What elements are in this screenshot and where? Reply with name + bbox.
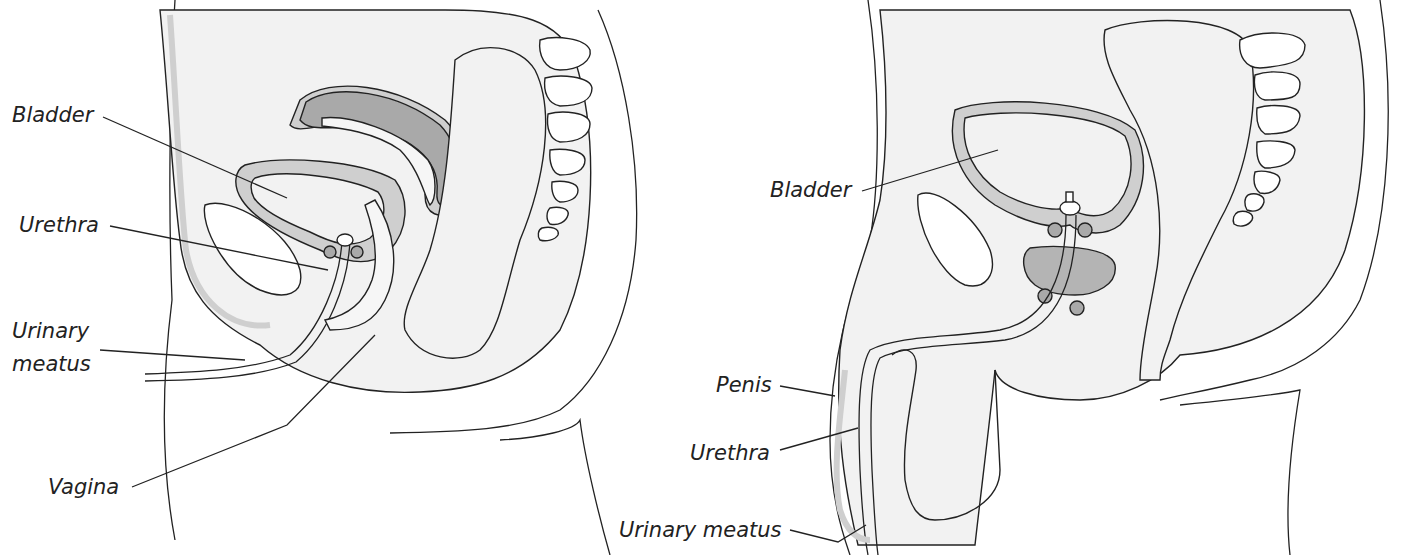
label-male-bladder: Bladder (770, 178, 853, 202)
leader-penis (780, 386, 835, 396)
label-female-urinary-meatus-line2: meatus (12, 352, 91, 376)
label-vagina: Vagina (48, 475, 119, 499)
male-gland-right (1078, 223, 1092, 237)
female-urethral-sphincter (337, 234, 353, 246)
label-female-urinary-meatus-line1: Urinary (12, 319, 90, 343)
urinary-system-diagram: Bladder Urethra Urinary meatus Vagina (0, 0, 1407, 555)
male-urethral-sphincter (1060, 201, 1080, 215)
label-penis: Penis (716, 373, 772, 397)
female-gland-left (324, 246, 336, 258)
female-section (145, 0, 637, 555)
male-gland-left (1048, 223, 1062, 237)
female-buttock-outline (500, 420, 610, 555)
label-male-urethra: Urethra (690, 441, 770, 465)
male-buttock-outline (1180, 390, 1300, 555)
leader-female-urinary-meatus (100, 350, 245, 360)
male-section (830, 0, 1388, 555)
label-female-urethra: Urethra (19, 213, 99, 237)
label-male-urinary-meatus: Urinary meatus (619, 518, 782, 542)
male-gland-lower-right (1070, 301, 1084, 315)
female-gland-right (351, 246, 363, 258)
label-female-bladder: Bladder (12, 103, 95, 127)
